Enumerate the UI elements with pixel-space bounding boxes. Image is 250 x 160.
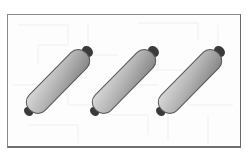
tube-3[interactable] (150, 40, 231, 122)
tube-1[interactable] (18, 40, 99, 122)
tubes-layer (0, 0, 250, 160)
tube-2[interactable] (84, 40, 165, 122)
